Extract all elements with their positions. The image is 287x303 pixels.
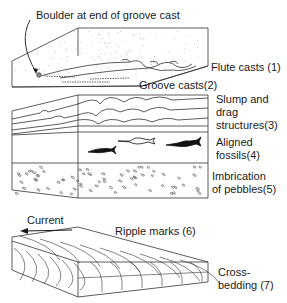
stipple-dot xyxy=(58,74,59,75)
stipple-dot xyxy=(117,74,118,75)
stipple-dot xyxy=(38,72,39,73)
stipple-dot xyxy=(141,56,142,57)
stipple-dot xyxy=(140,38,141,39)
stipple-dot xyxy=(80,42,81,43)
slump-label-line2: drag xyxy=(216,106,238,119)
stipple-dot xyxy=(102,30,103,31)
stipple-dot xyxy=(115,52,116,53)
stipple-dot xyxy=(91,57,92,58)
stipple-dot xyxy=(126,55,127,56)
stipple-dot xyxy=(133,35,134,36)
stipple-dot xyxy=(139,51,140,52)
stipple-dot xyxy=(121,56,122,57)
boulder xyxy=(37,73,42,78)
stipple-dot xyxy=(91,35,92,36)
stipple-dot xyxy=(68,72,69,73)
stipple-dot xyxy=(133,34,134,35)
current-label: Current xyxy=(27,214,64,227)
stipple-dot xyxy=(145,69,146,70)
stipple-dot xyxy=(98,56,99,57)
pebble xyxy=(15,192,19,195)
stipple-dot xyxy=(109,42,110,43)
stipple-dot xyxy=(52,58,53,59)
stipple-dot xyxy=(99,42,100,43)
stipple-dot xyxy=(37,54,38,55)
stipple-dot xyxy=(38,69,39,70)
stipple-dot xyxy=(115,58,116,59)
stipple-dot xyxy=(15,70,16,71)
stipple-dot xyxy=(88,31,89,32)
stipple-dot xyxy=(49,65,50,66)
stipple-dot xyxy=(104,42,105,43)
stipple-dot xyxy=(119,47,120,48)
stipple-dot xyxy=(78,48,79,49)
stipple-dot xyxy=(55,51,56,52)
stipple-dot xyxy=(198,57,199,58)
stipple-dot xyxy=(159,65,160,66)
pebbles-label-line1: Imbrication xyxy=(212,170,266,183)
boulder-label: Boulder at end of groove cast xyxy=(36,9,180,22)
stipple-dot xyxy=(67,49,68,50)
stipple-dot xyxy=(98,75,99,76)
stipple-dot xyxy=(151,64,152,65)
stipple-dot xyxy=(108,60,109,61)
flute-casts-label: Flute casts (1) xyxy=(211,61,281,74)
stipple-dot xyxy=(197,47,198,48)
stipple-dot xyxy=(117,45,118,46)
stipple-dot xyxy=(97,66,98,67)
stipple-dot xyxy=(136,74,137,75)
stipple-dot xyxy=(99,57,100,58)
stipple-dot xyxy=(175,37,176,38)
fossils-label-line1: Aligned xyxy=(216,136,253,149)
stipple-dot xyxy=(106,46,107,47)
stipple-dot xyxy=(144,64,145,65)
current-arrowhead-icon xyxy=(20,228,28,234)
stipple-dot xyxy=(108,32,109,33)
stipple-dot xyxy=(58,46,59,47)
internal-structures-block xyxy=(12,95,208,198)
stipple-dot xyxy=(65,71,66,72)
stipple-dot xyxy=(64,42,65,43)
stipple-dot xyxy=(102,38,103,39)
stipple-dot xyxy=(19,62,20,63)
groove-casts-label: Groove casts(2) xyxy=(139,79,217,92)
stipple-dot xyxy=(67,56,68,57)
stipple-dot xyxy=(129,51,130,52)
stipple-dot xyxy=(65,49,66,50)
stipple-dot xyxy=(76,49,77,50)
stipple-dot xyxy=(110,54,111,55)
stipple-dot xyxy=(173,39,174,40)
stipple-dot xyxy=(131,50,132,51)
stipple-dot xyxy=(108,35,109,36)
stipple-dot xyxy=(39,69,40,70)
stipple-dot xyxy=(154,56,155,57)
stipple-dot xyxy=(109,68,110,69)
stipple-dot xyxy=(107,43,108,44)
stipple-dot xyxy=(185,60,186,61)
stipple-dot xyxy=(100,34,101,35)
stipple-dot xyxy=(49,46,50,47)
stipple-dot xyxy=(165,68,166,69)
stipple-dot xyxy=(100,69,101,70)
stipple-dot xyxy=(149,67,150,68)
cross-bedding-label-line2: bedding (7) xyxy=(218,279,274,292)
stipple-dot xyxy=(143,45,144,46)
stipple-dot xyxy=(43,71,44,72)
stipple-dot xyxy=(80,52,81,53)
stipple-dot xyxy=(58,63,59,64)
stipple-dot xyxy=(39,68,40,69)
stipple-dot xyxy=(170,63,171,64)
stipple-dot xyxy=(186,35,187,36)
stipple-dot xyxy=(58,70,59,71)
stipple-dot xyxy=(77,31,78,32)
stipple-dot xyxy=(61,43,62,44)
stipple-dot xyxy=(101,59,102,60)
stipple-dot xyxy=(186,44,187,45)
ripple-marks-label: Ripple marks (6) xyxy=(115,225,196,238)
slump-label-line1: Slump and xyxy=(216,93,269,106)
fossils-label-line2: fossils(4) xyxy=(216,149,260,162)
stipple-dot xyxy=(123,41,124,42)
stipple-dot xyxy=(157,64,158,65)
stipple-dot xyxy=(91,42,92,43)
stipple-dot xyxy=(117,32,118,33)
